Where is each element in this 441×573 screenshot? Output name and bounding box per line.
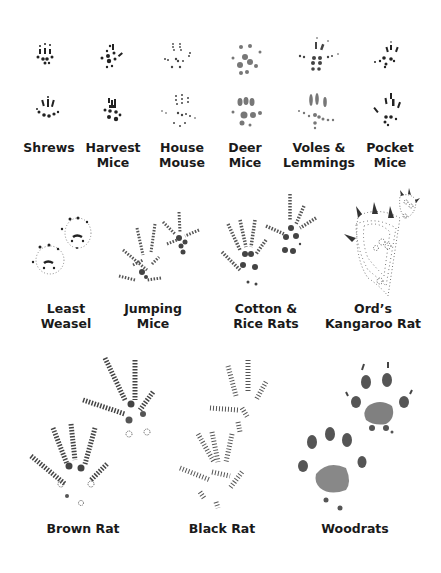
jumping-mouse-prints-icon	[115, 210, 203, 290]
harvest-mouse-hindfoot-print-icon	[100, 96, 124, 126]
label-house-mouse: HouseMouse	[159, 140, 205, 170]
house-mouse-forefoot-print-icon	[162, 42, 196, 74]
label-woodrats: Woodrats	[321, 521, 388, 536]
pocket-mouse-hindfoot-print-icon	[372, 89, 408, 131]
vole-forefoot-print-icon	[295, 36, 343, 76]
label-pocket-mice: PocketMice	[366, 140, 414, 170]
cotton-rat-prints-icon	[218, 192, 318, 292]
label-cotton-rice-rats: Cotton &Rice Rats	[233, 301, 299, 331]
deer-mouse-hindfoot-print-icon	[230, 94, 266, 130]
label-jumping-mice: JumpingMice	[124, 301, 182, 331]
pocket-mouse-forefoot-print-icon	[372, 40, 406, 74]
woodrat-prints-icon	[296, 358, 426, 514]
vole-hindfoot-print-icon	[297, 90, 341, 134]
label-black-rat: Black Rat	[189, 521, 255, 536]
label-least-weasel: LeastWeasel	[41, 301, 91, 331]
label-shrews: Shrews	[23, 140, 75, 155]
house-mouse-hindfoot-print-icon	[160, 92, 200, 132]
label-harvest-mice: HarvestMice	[85, 140, 140, 170]
harvest-mouse-forefoot-print-icon	[98, 42, 126, 72]
brown-rat-prints-icon	[25, 352, 165, 512]
shrew-forefoot-print-icon	[35, 42, 59, 70]
least-weasel-prints-icon	[30, 208, 100, 290]
label-ords-kangaroo-rat: Ord’sKangaroo Rat	[325, 301, 421, 331]
shrew-hindfoot-print-icon	[35, 95, 61, 127]
label-deer-mice: DeerMice	[228, 140, 262, 170]
kangaroo-rat-prints-icon	[338, 186, 422, 296]
deer-mouse-forefoot-print-icon	[230, 42, 264, 82]
label-brown-rat: Brown Rat	[46, 521, 119, 536]
label-voles-lemmings: Voles &Lemmings	[283, 140, 355, 170]
black-rat-prints-icon	[170, 352, 280, 512]
